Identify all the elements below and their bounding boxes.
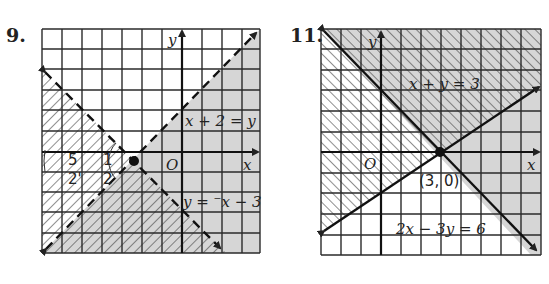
- graph-11-point-label: (3, 0): [419, 172, 459, 190]
- graph-11-equation-2: 2x − 3y = 6: [395, 220, 486, 238]
- graph-11-x-label: x: [527, 156, 536, 174]
- graph-11: y x O x + y = 3 2x − 3y = 6 (3, 0): [0, 0, 549, 284]
- graph-11-intersection-point: [435, 147, 445, 157]
- graph-11-origin-label: O: [364, 155, 376, 173]
- graph-11-y-label: y: [367, 33, 377, 51]
- graph-11-equation-1: x + y = 3: [409, 75, 480, 93]
